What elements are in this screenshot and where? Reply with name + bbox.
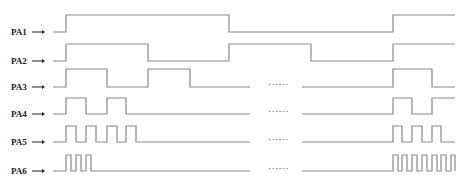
signal-label: PA2 <box>11 56 27 66</box>
waveform <box>302 155 455 171</box>
waveform <box>53 69 250 87</box>
waveform <box>53 98 250 114</box>
signal-pa6: PA6······ <box>11 155 455 176</box>
waveform <box>302 126 455 142</box>
ellipsis: ······ <box>268 134 289 144</box>
signal-label: PA3 <box>11 82 27 92</box>
signal-pa5: PA5······ <box>11 126 455 147</box>
signal-pa1: PA1 <box>11 15 455 37</box>
ellipsis: ······ <box>268 79 289 89</box>
signal-label: PA1 <box>11 27 27 37</box>
signal-pa3: PA3······ <box>11 69 455 92</box>
signals-layer: PA1PA2PA3······PA4······PA5······PA6····… <box>11 15 455 176</box>
arrow-head-icon <box>42 85 45 89</box>
arrow-head-icon <box>42 169 45 173</box>
signal-label: PA4 <box>11 109 27 119</box>
signal-pa4: PA4······ <box>11 98 455 119</box>
arrow-head-icon <box>42 112 45 116</box>
signal-pa2: PA2 <box>11 44 455 66</box>
timing-diagram: PA1PA2PA3······PA4······PA5······PA6····… <box>0 0 466 187</box>
ellipsis: ······ <box>268 163 289 173</box>
ellipsis: ······ <box>268 106 289 116</box>
signal-label: PA6 <box>11 166 27 176</box>
arrow-head-icon <box>42 30 45 34</box>
waveform <box>302 69 455 87</box>
waveform <box>53 44 455 61</box>
arrow-head-icon <box>42 59 45 63</box>
waveform <box>53 15 455 32</box>
waveform <box>53 155 250 171</box>
arrow-head-icon <box>42 140 45 144</box>
signal-label: PA5 <box>11 137 27 147</box>
waveform <box>302 98 455 114</box>
waveform <box>53 126 250 142</box>
